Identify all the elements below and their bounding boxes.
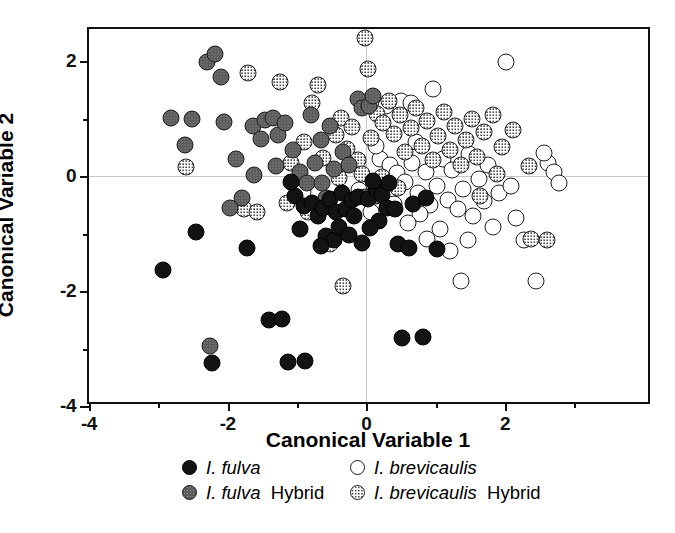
data-point	[505, 122, 522, 139]
y-axis-tick-label: 0	[66, 165, 76, 187]
data-point	[212, 69, 229, 86]
x-axis-tick	[89, 402, 91, 411]
canonical-variate-scatter-figure: Canonical Variable 2 Canonical Variable …	[0, 0, 675, 533]
data-point	[297, 353, 314, 370]
data-point	[155, 261, 172, 278]
data-point	[176, 136, 193, 153]
data-point	[387, 201, 404, 218]
data-point	[463, 110, 480, 127]
data-point	[246, 166, 263, 183]
x-axis-minor-tick	[436, 402, 438, 408]
data-point	[502, 178, 519, 195]
data-point	[183, 110, 200, 127]
data-point	[334, 278, 351, 295]
data-point	[551, 175, 568, 192]
data-point	[307, 155, 324, 172]
data-point	[465, 208, 482, 225]
data-point	[484, 218, 501, 235]
data-point	[248, 203, 265, 220]
data-point	[359, 61, 376, 78]
x-axis-tick-label: -4	[81, 413, 97, 435]
x-axis-minor-tick	[574, 402, 576, 408]
data-point	[268, 157, 285, 174]
data-point	[401, 239, 418, 256]
data-point	[447, 117, 464, 134]
data-point	[441, 141, 458, 158]
data-point	[469, 148, 486, 165]
data-point	[345, 208, 362, 225]
data-point	[397, 143, 414, 160]
data-point	[187, 224, 204, 241]
data-point	[452, 272, 469, 289]
data-point	[312, 238, 329, 255]
x-axis-tick-label: -2	[220, 413, 236, 435]
data-point	[394, 330, 411, 347]
legend-item: I. brevicaulis	[350, 457, 477, 479]
y-axis-minor-tick	[83, 349, 89, 351]
data-point	[386, 125, 403, 142]
data-point	[458, 132, 475, 149]
data-point	[419, 112, 436, 129]
y-axis-tick	[80, 176, 89, 178]
x-axis-tick	[228, 402, 230, 411]
x-axis-minor-tick	[297, 402, 299, 408]
x-axis-tick	[505, 402, 507, 411]
data-point	[292, 220, 309, 237]
y-axis-tick-label: 2	[66, 50, 76, 72]
data-point	[424, 80, 441, 97]
legend: I. fulvaI. brevicaulisI. fulva HybridI. …	[182, 455, 582, 505]
legend-item: I. brevicaulis Hybrid	[350, 482, 541, 504]
legend-swatch-fulva_hyb-icon	[182, 485, 197, 500]
data-point	[484, 107, 501, 124]
data-point	[429, 240, 446, 257]
legend-label: I. fulva	[206, 457, 261, 479]
data-point	[498, 54, 515, 71]
legend-label: I. fulva Hybrid	[206, 482, 324, 504]
data-point	[227, 150, 244, 167]
y-axis-tick	[80, 61, 89, 63]
legend-item: I. fulva	[182, 457, 350, 479]
legend-swatch-fulva-icon	[182, 460, 197, 475]
data-point	[313, 175, 330, 192]
data-point	[424, 152, 441, 169]
data-point	[452, 156, 469, 173]
y-axis-tick-label: -4	[60, 395, 76, 417]
y-axis-title: Canonical Variable 2	[0, 113, 18, 317]
y-axis-tick	[80, 291, 89, 293]
data-point	[202, 337, 219, 354]
data-point	[470, 170, 487, 187]
x-axis-tick-label: 2	[500, 413, 510, 435]
data-point	[415, 329, 432, 346]
data-point	[341, 156, 358, 173]
data-point	[272, 73, 289, 90]
data-point	[356, 30, 373, 47]
data-point	[381, 175, 398, 192]
data-point	[365, 172, 382, 189]
data-point	[508, 209, 525, 226]
x-axis-tick	[366, 402, 368, 411]
data-point	[417, 189, 434, 206]
data-point	[365, 87, 382, 104]
data-point	[535, 145, 552, 162]
data-point	[455, 180, 472, 197]
legend-swatch-brev_hyb-icon	[350, 485, 365, 500]
legend-row: I. fulva HybridI. brevicaulis Hybrid	[182, 480, 582, 505]
data-point	[322, 117, 339, 134]
legend-item: I. fulva Hybrid	[182, 482, 350, 504]
data-point	[240, 64, 257, 81]
data-point	[538, 232, 555, 249]
data-point	[162, 109, 179, 126]
data-point	[402, 119, 419, 136]
data-point	[527, 272, 544, 289]
data-point	[284, 142, 301, 159]
data-point	[312, 132, 329, 149]
data-point	[520, 157, 537, 174]
data-point	[222, 200, 239, 217]
legend-label: I. brevicaulis	[374, 457, 477, 479]
data-point	[309, 77, 326, 94]
y-axis-minor-tick	[83, 234, 89, 236]
data-point	[362, 130, 379, 147]
data-point	[207, 46, 224, 63]
data-point	[239, 239, 256, 256]
data-point	[273, 310, 290, 327]
